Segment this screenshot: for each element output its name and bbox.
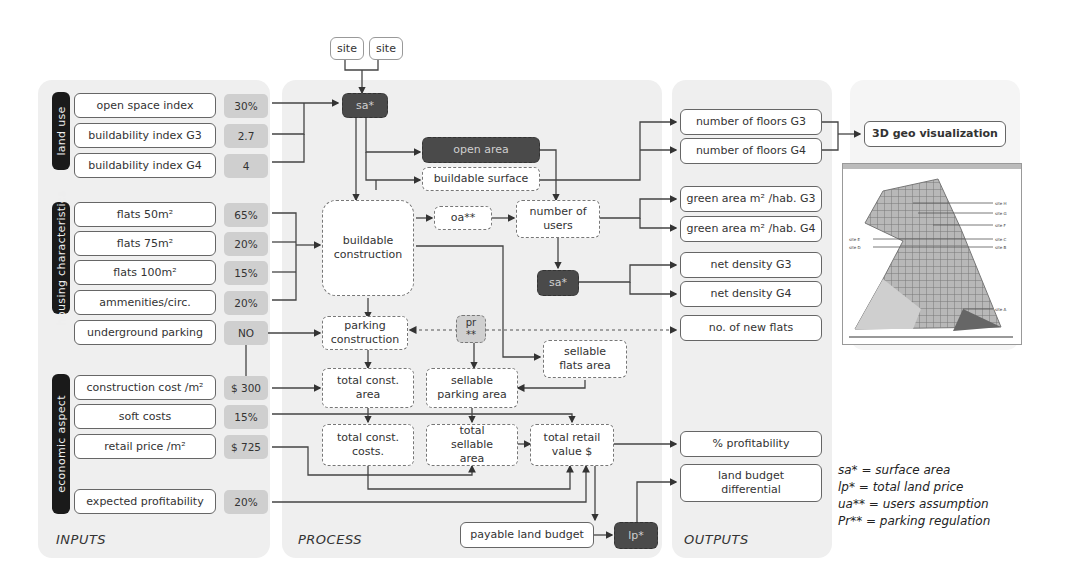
total-sellable-area-node: total sellable area — [426, 424, 518, 466]
svg-text:site A: site A — [995, 307, 1006, 312]
number-of-users-node: number of users — [516, 200, 600, 238]
output-profitability: % profitability — [680, 431, 822, 457]
value-soft-costs[interactable]: 15% — [224, 405, 268, 429]
output-net-density-g3: net density G3 — [680, 252, 822, 278]
output-floors-g3: number of floors G3 — [680, 109, 822, 135]
input-construction-cost: construction cost /m² — [74, 375, 216, 400]
buildable-surface-node: buildable surface — [422, 167, 540, 191]
value-buildability-g4[interactable]: 4 — [224, 154, 268, 178]
output-green-g4: green area m² /hab. G4 — [680, 216, 822, 242]
value-flats-75[interactable]: 20% — [224, 232, 268, 256]
parking-construction-node: parking construction — [322, 316, 408, 350]
input-retail-price: retail price /m² — [74, 434, 216, 459]
lp-node: lp* — [614, 522, 658, 549]
legend: sa* = surface area lp* = total land pric… — [838, 462, 990, 530]
output-green-g3: green area m² /hab. G3 — [680, 186, 822, 212]
input-ammenities: ammenities/circ. — [74, 290, 216, 315]
value-expected-profitability[interactable]: 20% — [224, 490, 268, 514]
input-buildability-g4: buildability index G4 — [74, 153, 216, 178]
3d-geo-visualization-box: 3D geo visualization — [864, 121, 1006, 147]
group-label-economic: economic aspect — [52, 374, 70, 514]
sellable-parking-area-node: sellable parking area — [426, 368, 518, 408]
input-expected-profitability: expected profitability — [74, 489, 216, 514]
value-buildability-g3[interactable]: 2.7 — [224, 124, 268, 148]
value-flats-50[interactable]: 65% — [224, 203, 268, 227]
group-label-land-use: land use — [52, 92, 70, 170]
3d-map-thumbnail: site H site G site F site C site B site … — [842, 163, 1022, 345]
output-new-flats: no. of new flats — [680, 315, 822, 341]
svg-text:site H: site H — [995, 201, 1007, 206]
svg-text:site D: site D — [849, 245, 861, 250]
value-retail-price[interactable]: $ 725 — [224, 435, 268, 459]
legend-item: Pr** = parking regulation — [838, 513, 990, 530]
sa-mid-node: sa* — [537, 270, 579, 296]
input-flats-75: flats 75m² — [74, 231, 216, 256]
value-underground-parking[interactable]: NO — [224, 321, 268, 345]
site-right-box: site — [369, 37, 403, 60]
output-net-density-g4: net density G4 — [680, 281, 822, 307]
pr-node: pr ** — [456, 315, 486, 343]
total-retail-value-node: total retail value $ — [530, 424, 614, 466]
payable-land-budget-node: payable land budget — [460, 522, 594, 548]
svg-text:site C: site C — [995, 237, 1006, 242]
input-soft-costs: soft costs — [74, 404, 216, 429]
inputs-section-title: INPUTS — [56, 532, 106, 547]
outputs-section-title: OUTPUTS — [684, 532, 749, 547]
map-illustration: site H site G site F site C site B site … — [843, 169, 1019, 342]
sa-top-node: sa* — [342, 93, 388, 118]
output-floors-g4: number of floors G4 — [680, 138, 822, 164]
buildable-construction-node: buildable construction — [322, 200, 414, 296]
svg-text:site E: site E — [849, 237, 860, 242]
total-const-area-node: total const. area — [322, 368, 414, 408]
total-const-costs-node: total const. costs. — [322, 424, 414, 466]
value-ammenities[interactable]: 20% — [224, 291, 268, 315]
legend-item: lp* = total land price — [838, 479, 990, 496]
sellable-flats-area-node: sellable flats area — [543, 340, 627, 378]
process-section-title: PROCESS — [298, 532, 362, 547]
input-underground-parking: underground parking — [74, 320, 216, 345]
legend-item: sa* = surface area — [838, 462, 990, 479]
value-open-space-index[interactable]: 30% — [224, 94, 268, 118]
site-left-box: site — [330, 37, 364, 60]
value-flats-100[interactable]: 15% — [224, 261, 268, 285]
svg-text:site B: site B — [995, 245, 1006, 250]
value-construction-cost[interactable]: $ 300 — [224, 376, 268, 400]
input-flats-100: flats 100m² — [74, 260, 216, 285]
oa-node: oa** — [434, 206, 492, 230]
output-land-budget-differential: land budget differential — [680, 464, 822, 502]
input-flats-50: flats 50m² — [74, 202, 216, 227]
group-label-housing: housing characteristics — [52, 202, 70, 314]
input-buildability-g3: buildability index G3 — [74, 123, 216, 148]
svg-text:site G: site G — [995, 211, 1007, 216]
svg-text:site F: site F — [995, 223, 1006, 228]
input-open-space-index: open space index — [74, 93, 216, 118]
legend-item: ua** = users assumption — [838, 496, 990, 513]
open-area-node: open area — [422, 137, 540, 163]
